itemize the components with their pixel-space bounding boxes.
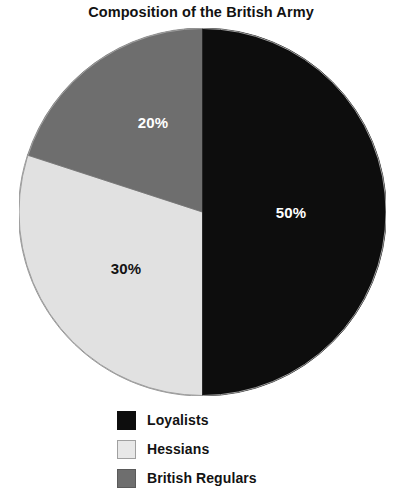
chart-legend: Loyalists Hessians British Regulars xyxy=(117,406,377,493)
legend-swatch-british-regulars xyxy=(117,469,136,488)
pie-label-hessians: 30% xyxy=(111,260,142,277)
pie-svg: 50% 30% 20% xyxy=(19,28,386,396)
pie-label-loyalists: 50% xyxy=(276,204,307,221)
legend-swatch-loyalists xyxy=(117,411,136,430)
legend-swatch-hessians xyxy=(117,440,136,459)
chart-title: Composition of the British Army xyxy=(0,3,402,21)
legend-item-british-regulars[interactable]: British Regulars xyxy=(117,464,377,492)
legend-label-hessians: Hessians xyxy=(147,441,209,457)
legend-label-british-regulars: British Regulars xyxy=(147,470,257,486)
legend-label-loyalists: Loyalists xyxy=(147,412,209,428)
legend-item-hessians[interactable]: Hessians xyxy=(117,435,377,463)
pie-label-british-regulars: 20% xyxy=(138,114,169,131)
legend-item-loyalists[interactable]: Loyalists xyxy=(117,406,377,434)
pie-chart-figure: Composition of the British Army 50% 30% … xyxy=(0,0,402,497)
pie-chart-graphic: 50% 30% 20% xyxy=(19,28,386,396)
